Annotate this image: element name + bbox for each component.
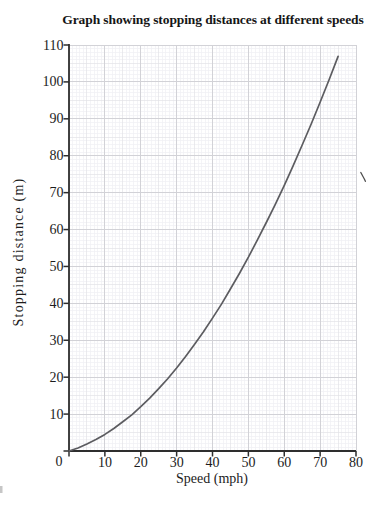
- y-tick-label: 70: [50, 185, 64, 200]
- x-tick-label: 30: [170, 455, 184, 470]
- y-tick-label: 90: [50, 111, 64, 126]
- origin-label: 0: [56, 454, 63, 469]
- y-tick-label: 30: [50, 333, 64, 348]
- stray-mark: [361, 173, 366, 182]
- grid: [69, 45, 356, 451]
- y-tick-label: 50: [50, 259, 64, 274]
- x-tick-label: 70: [313, 455, 327, 470]
- scan-artifact: [0, 486, 3, 493]
- y-tick-label: 20: [50, 370, 64, 385]
- y-tick-label: 60: [50, 222, 64, 237]
- x-tick-label: 10: [98, 455, 112, 470]
- x-tick-label: 20: [134, 455, 148, 470]
- y-axis-label: Stopping distance (m): [11, 178, 27, 327]
- y-tick-label: 40: [50, 296, 64, 311]
- y-tick-label: 80: [50, 148, 64, 163]
- y-tick-label: 110: [43, 38, 63, 53]
- x-tick-label: 40: [206, 455, 220, 470]
- x-tick-label: 50: [241, 455, 255, 470]
- y-tick-label: 10: [50, 407, 64, 422]
- axis-ticks: [64, 45, 357, 457]
- x-tick-label: 80: [349, 455, 363, 470]
- page: { "chart_data": { "type": "line", "title…: [0, 0, 380, 507]
- y-tick-label: 100: [43, 74, 64, 89]
- stopping-distance-chart: 1020304050607080102030405060708090100110…: [0, 0, 380, 507]
- x-tick-label: 60: [277, 455, 291, 470]
- x-axis-label: Speed (mph): [176, 471, 248, 487]
